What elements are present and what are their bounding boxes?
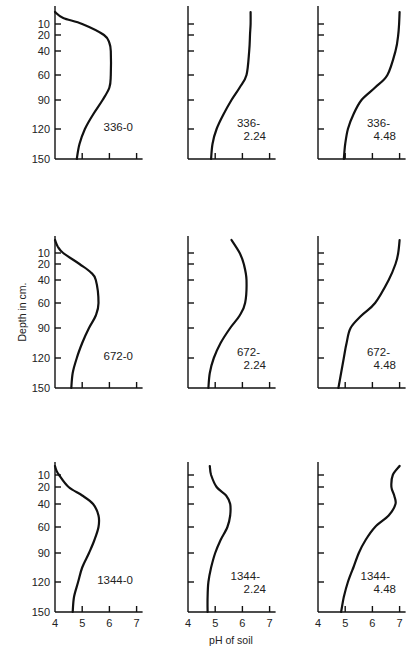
soil-ph-depth-chart: 1020406090120150336-0336-2.24336-4.48102… (0, 0, 414, 656)
x-tick-label: 7 (397, 617, 403, 629)
ph-profile-curve (55, 12, 111, 159)
x-tick-label: 7 (267, 617, 273, 629)
panel-label-line: 672-0 (104, 350, 133, 362)
panel-label-line: 336-0 (104, 121, 133, 133)
x-tick-label: 6 (369, 617, 375, 629)
panel-label-line: 672- (367, 346, 390, 358)
x-tick-label: 4 (315, 617, 321, 629)
panel-label-line: 4.48 (374, 130, 396, 142)
x-tick-label: 7 (134, 617, 140, 629)
panel-label: 336-4.48 (367, 117, 396, 142)
y-tick-label: 20 (38, 258, 50, 270)
y-tick-label: 150 (32, 606, 50, 618)
y-tick-label: 40 (38, 498, 50, 510)
y-tick-label: 60 (38, 69, 50, 81)
panel-label: 1344-0 (97, 574, 133, 586)
y-tick-label: 60 (38, 297, 50, 309)
y-tick-label: 90 (38, 322, 50, 334)
panel-336-2.24: 336-2.24 (188, 6, 276, 159)
panel-label-line: 336- (367, 117, 390, 129)
panel-336-4.48: 336-4.48 (318, 6, 406, 159)
y-tick-label: 120 (32, 576, 50, 588)
panel-336-0: 1020406090120150336-0 (32, 6, 143, 165)
panel-label-line: 672- (237, 346, 260, 358)
panel-label: 672-2.24 (237, 346, 267, 371)
x-tick-label: 5 (79, 617, 85, 629)
x-tick-label: 4 (185, 617, 191, 629)
ph-profile-curve (208, 466, 231, 612)
panel-label: 1344-2.24 (231, 570, 267, 595)
panel-label: 672-0 (104, 350, 133, 362)
panel-grid: 1020406090120150336-0336-2.24336-4.48102… (32, 6, 406, 629)
y-axis-title: Depth in cm. (16, 283, 28, 342)
panel-label-line: 4.48 (374, 583, 396, 595)
y-tick-label: 150 (32, 153, 50, 165)
x-tick-label: 5 (212, 617, 218, 629)
panel-672-4.48: 672-4.48 (318, 236, 406, 388)
panel-label: 1344-4.48 (361, 570, 396, 595)
ph-profile-curve (55, 466, 99, 612)
panel-label-line: 2.24 (244, 130, 267, 142)
y-tick-label: 60 (38, 521, 50, 533)
panel-label-line: 336- (237, 117, 260, 129)
panel-label-line: 2.24 (244, 359, 267, 371)
y-tick-label: 20 (38, 481, 50, 493)
x-tick-label: 4 (52, 617, 58, 629)
panel-label: 336-0 (104, 121, 133, 133)
y-tick-label: 40 (38, 45, 50, 57)
ph-profile-curve (208, 240, 246, 388)
panel-label-line: 1344-0 (97, 574, 133, 586)
y-tick-label: 90 (38, 94, 50, 106)
panel-1344-2.24: 45671344-2.24 (185, 462, 276, 629)
panel-label-line: 4.48 (374, 359, 396, 371)
panel-label-line: 1344- (361, 570, 391, 582)
panel-label: 672-4.48 (367, 346, 396, 371)
x-tick-label: 6 (106, 617, 112, 629)
x-tick-label: 5 (342, 617, 348, 629)
y-tick-label: 120 (32, 123, 50, 135)
panel-672-2.24: 672-2.24 (188, 236, 276, 388)
y-tick-label: 40 (38, 274, 50, 286)
panel-672-0: 1020406090120150672-0 (32, 236, 143, 394)
panel-label-line: 2.24 (244, 583, 267, 595)
panel-label-line: 1344- (231, 570, 261, 582)
y-tick-label: 10 (38, 469, 50, 481)
y-tick-label: 90 (38, 547, 50, 559)
panel-1344-0: 102040609012015045671344-0 (32, 462, 143, 629)
x-axis-title: pH of soil (209, 634, 253, 646)
y-tick-label: 20 (38, 29, 50, 41)
y-tick-label: 120 (32, 352, 50, 364)
y-tick-label: 150 (32, 382, 50, 394)
x-tick-label: 6 (239, 617, 245, 629)
ph-profile-curve (55, 240, 99, 388)
panel-label: 336-2.24 (237, 117, 267, 142)
panel-1344-4.48: 45671344-4.48 (315, 462, 406, 629)
